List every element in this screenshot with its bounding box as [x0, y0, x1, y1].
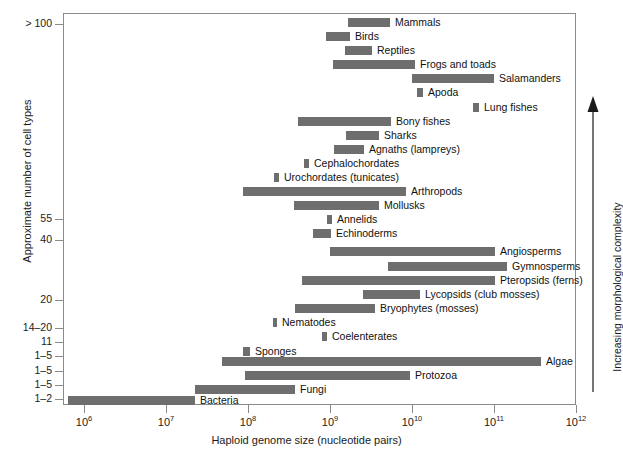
- range-bar: [274, 173, 279, 182]
- bar-label: Lung fishes: [484, 102, 538, 113]
- x-tick-label: 109: [322, 414, 338, 428]
- y-tick-mark: [55, 219, 63, 220]
- y-tick-label: 1–5: [0, 379, 52, 389]
- x-tick-exponent: 8: [252, 414, 256, 423]
- range-bar: [326, 32, 350, 41]
- x-tick-exponent: 12: [578, 414, 586, 423]
- bar-label: Algae: [546, 356, 573, 367]
- complexity-arrow-label: Increasing morphological complexity: [611, 167, 623, 407]
- y-tick-mark: [55, 399, 63, 400]
- x-tick-label: 1011: [484, 414, 504, 428]
- bar-label: Frogs and toads: [420, 59, 496, 70]
- y-tick-label: 1–5: [0, 350, 52, 360]
- y-tick-label: 20: [0, 294, 52, 304]
- bar-label: Sharks: [384, 130, 417, 141]
- range-bar: [195, 385, 295, 394]
- bar-label: Gymnosperms: [512, 261, 580, 272]
- range-bar: [222, 357, 541, 366]
- bar-label: Protozoa: [415, 370, 457, 381]
- range-bar: [333, 60, 415, 69]
- x-tick-exponent: 7: [170, 414, 174, 423]
- bar-label: Agnaths (lampreys): [369, 144, 460, 155]
- y-tick-label: 55: [0, 213, 52, 223]
- x-tick-exponent: 6: [88, 414, 92, 423]
- y-tick-label: > 100: [0, 18, 52, 28]
- y-tick-mark: [55, 328, 63, 329]
- range-bar: [417, 88, 423, 97]
- y-axis-title: Approximate number of cell types: [21, 71, 33, 291]
- x-tick-label: 106: [76, 414, 92, 428]
- range-bar: [295, 304, 375, 313]
- x-tick-base: 10: [402, 416, 414, 428]
- x-tick-exponent: 9: [334, 414, 338, 423]
- y-tick-mark: [55, 240, 63, 241]
- bar-label: Bryophytes (mosses): [380, 303, 479, 314]
- y-tick-mark: [55, 342, 63, 343]
- range-bar: [68, 396, 195, 405]
- bar-label: Echinoderms: [336, 228, 397, 239]
- x-tick-label: 1010: [402, 414, 423, 428]
- bar-label: Lycopsids (club mosses): [425, 289, 540, 300]
- range-bar: [334, 145, 364, 154]
- bar-label: Pteropsids (ferns): [500, 275, 583, 286]
- bar-label: Reptiles: [377, 45, 415, 56]
- range-bar: [363, 290, 420, 299]
- bar-label: Angiosperms: [500, 246, 561, 257]
- range-bar: [273, 318, 277, 327]
- range-bar: [388, 262, 507, 271]
- bar-label: Mammals: [395, 17, 441, 28]
- x-tick-exponent: 11: [496, 414, 504, 423]
- range-bar: [348, 18, 390, 27]
- x-tick-mark: [412, 405, 413, 413]
- x-tick-label: 107: [158, 414, 174, 428]
- y-tick-mark: [55, 356, 63, 357]
- bar-label: Urochordates (tunicates): [284, 172, 399, 183]
- bar-label: Fungi: [300, 384, 326, 395]
- y-tick-label: 14–20: [0, 322, 52, 332]
- complexity-arrow: Increasing morphological complexity: [585, 96, 601, 392]
- range-bar: [302, 276, 495, 285]
- bar-label: Mollusks: [384, 200, 425, 211]
- x-axis-title: Haploid genome size (nucleotide pairs): [0, 434, 613, 446]
- range-bar: [346, 131, 379, 140]
- bar-label: Salamanders: [499, 73, 561, 84]
- x-tick-base: 10: [484, 416, 496, 428]
- x-tick-base: 10: [76, 416, 88, 428]
- range-bar: [304, 159, 309, 168]
- bar-label: Bony fishes: [396, 116, 450, 127]
- range-bar: [245, 371, 410, 380]
- x-tick-mark: [166, 405, 167, 413]
- bar-label: Cephalochordates: [314, 158, 399, 169]
- x-tick-mark: [576, 405, 577, 413]
- bar-label: Bacteria: [200, 395, 239, 406]
- bar-label: Coelenterates: [332, 331, 397, 342]
- range-bar: [313, 229, 331, 238]
- y-tick-label: 1–5: [0, 365, 52, 375]
- x-tick-label: 1012: [566, 414, 587, 428]
- x-tick-mark: [84, 405, 85, 413]
- y-tick-label: 1–2: [0, 393, 52, 403]
- x-tick-mark: [330, 405, 331, 413]
- y-tick-mark: [55, 300, 63, 301]
- range-bar: [473, 103, 479, 112]
- y-tick-mark: [55, 24, 63, 25]
- range-bar: [330, 247, 495, 256]
- x-tick-base: 10: [566, 416, 578, 428]
- range-bar: [412, 74, 494, 83]
- range-bar: [327, 215, 332, 224]
- range-bar: [243, 187, 406, 196]
- bar-label: Apoda: [428, 87, 458, 98]
- bar-label: Nematodes: [282, 317, 336, 328]
- bar-label: Annelids: [337, 214, 377, 225]
- range-bar: [322, 332, 327, 341]
- range-bar: [298, 117, 391, 126]
- y-tick-mark: [55, 371, 63, 372]
- y-tick-label: 11: [0, 336, 52, 346]
- range-bar: [345, 46, 372, 55]
- x-tick-mark: [494, 405, 495, 413]
- x-tick-exponent: 10: [414, 414, 422, 423]
- range-bar: [243, 347, 250, 356]
- y-tick-mark: [55, 385, 63, 386]
- x-tick-base: 10: [240, 416, 252, 428]
